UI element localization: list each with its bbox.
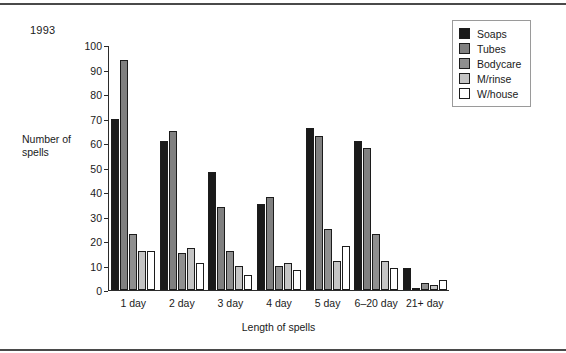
bar[interactable] [257,204,265,290]
legend-item[interactable]: Soaps [459,26,521,41]
y-tick-mark [104,71,108,72]
y-tick-mark [104,267,108,268]
y-tick-mark [104,169,108,170]
bar[interactable] [178,253,186,290]
bar[interactable] [129,234,137,290]
bar[interactable] [160,141,168,290]
bar[interactable] [381,261,389,290]
bar[interactable] [244,275,252,290]
bar[interactable] [217,207,225,290]
bar[interactable] [111,119,119,291]
legend-label: W/house [477,88,518,100]
chart-legend: SoapsTubesBodycareM/rinseW/house [452,20,531,107]
bar-group: 2 day [158,46,207,290]
y-tick-label: 30 [90,212,102,224]
y-tick-mark [104,144,108,145]
y-tick-label: 80 [90,89,102,101]
legend-swatch-icon [459,58,470,69]
y-tick-label: 20 [90,236,102,248]
bar[interactable] [284,263,292,290]
bar[interactable] [333,261,341,290]
bar-group: 6–20 day [352,46,401,290]
y-tick-mark [104,46,108,47]
bar[interactable] [421,283,429,290]
chart-figure: 1993 Number of spells 100908070605040302… [0,0,566,353]
bottom-divider-rule [0,349,566,351]
y-tick-mark [104,291,108,292]
bar[interactable] [208,172,216,290]
bar[interactable] [403,268,411,290]
bar-group: 5 day [303,46,352,290]
x-tick-label: 3 day [218,297,244,309]
bar[interactable] [275,266,283,291]
bar[interactable] [363,148,371,290]
legend-swatch-icon [459,28,470,39]
legend-label: M/rinse [477,73,511,85]
bar[interactable] [266,197,274,290]
bar-group: 1 day [109,46,158,290]
y-tick-label: 70 [90,114,102,126]
bar[interactable] [390,268,398,290]
bar-groups: 1 day2 day3 day4 day5 day6–20 day21+ day [109,46,449,290]
x-tick-label: 5 day [315,297,341,309]
x-tick-label: 1 day [120,297,146,309]
y-tick-label: 0 [96,285,102,297]
bar[interactable] [342,246,350,290]
bar[interactable] [169,131,177,290]
y-tick-mark [104,218,108,219]
bar-group: 21+ day [400,46,449,290]
legend-swatch-icon [459,73,470,84]
y-tick-mark [104,120,108,121]
bar[interactable] [354,141,362,290]
bar[interactable] [187,248,195,290]
x-tick-label: 2 day [169,297,195,309]
y-tick-mark [104,242,108,243]
y-tick-mark [104,193,108,194]
plot-area: 1009080706050403020100 1 day2 day3 day4 … [108,46,448,291]
x-tick-label: 21+ day [406,297,444,309]
x-tick-label: 4 day [266,297,292,309]
legend-label: Bodycare [477,58,521,70]
y-tick-label: 90 [90,65,102,77]
legend-swatch-icon [459,88,470,99]
bar[interactable] [439,280,447,290]
bar[interactable] [120,60,128,290]
legend-label: Soaps [477,28,507,40]
legend-item[interactable]: M/rinse [459,71,521,86]
y-tick-label: 50 [90,163,102,175]
bar[interactable] [147,251,155,290]
legend-swatch-icon [459,43,470,54]
y-tick-mark [104,95,108,96]
y-tick-label: 100 [84,40,102,52]
bar[interactable] [430,285,438,290]
bar[interactable] [226,251,234,290]
x-tick-label: 6–20 day [355,297,398,309]
bar[interactable] [235,266,243,291]
bar[interactable] [293,270,301,290]
bar[interactable] [138,251,146,290]
x-axis-line [108,290,449,291]
y-axis-title: Number of spells [22,133,98,158]
bar[interactable] [324,229,332,290]
legend-item[interactable]: W/house [459,86,521,101]
bar[interactable] [306,128,314,290]
y-tick-label: 60 [90,138,102,150]
bar-group: 3 day [206,46,255,290]
legend-item[interactable]: Bodycare [459,56,521,71]
legend-item[interactable]: Tubes [459,41,521,56]
bar[interactable] [196,263,204,290]
legend-label: Tubes [477,43,506,55]
y-tick-label: 40 [90,187,102,199]
bar[interactable] [372,234,380,290]
x-axis-title: Length of spells [108,321,449,333]
year-caption: 1993 [30,24,55,36]
y-tick-label: 10 [90,261,102,273]
bar-group: 4 day [255,46,304,290]
top-divider-rule [0,3,566,5]
bar[interactable] [412,288,420,290]
bar[interactable] [315,136,323,290]
